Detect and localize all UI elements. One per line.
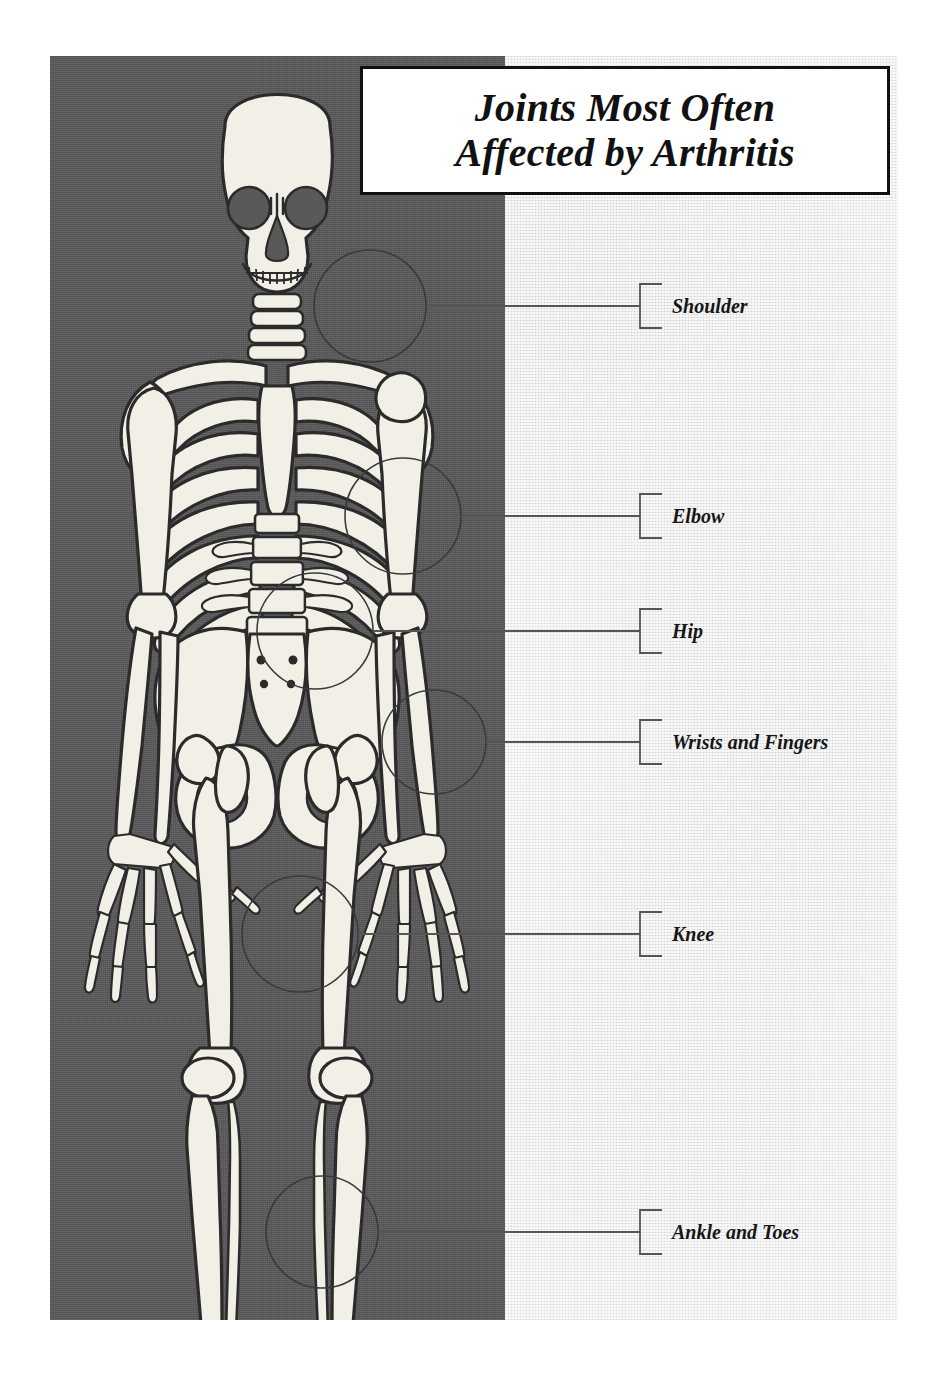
title-line-2: Affected by Arthritis xyxy=(455,131,795,176)
skeleton-illustration: .bone { fill:#f2f0e6; stroke:#2b2b2b; st… xyxy=(50,56,505,1320)
skull-group xyxy=(222,95,332,293)
sternum-group xyxy=(259,386,296,517)
callout-label-knee: Knee xyxy=(672,923,714,946)
cervical-spine-group xyxy=(248,294,306,360)
callout-label-wrists-and-fingers: Wrists and Fingers xyxy=(672,731,828,754)
poster-canvas: .bone { fill:#f2f0e6; stroke:#2b2b2b; st… xyxy=(0,0,937,1384)
callout-label-shoulder: Shoulder xyxy=(672,295,748,318)
poster-title-box: Joints Most Often Affected by Arthritis xyxy=(360,66,890,195)
callout-label-ankle-and-toes: Ankle and Toes xyxy=(672,1221,799,1244)
callout-label-elbow: Elbow xyxy=(672,505,724,528)
light-background-panel xyxy=(505,56,898,1320)
callout-label-hip: Hip xyxy=(672,620,703,643)
title-line-1: Joints Most Often xyxy=(475,86,776,131)
